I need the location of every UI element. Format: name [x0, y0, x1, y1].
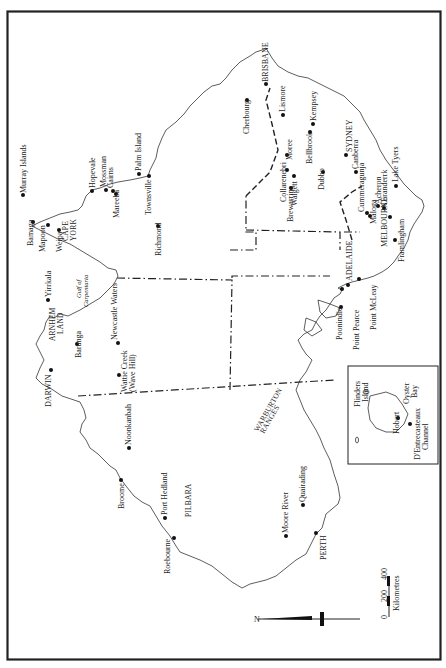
label-cherbourg: Cherbourg — [242, 100, 251, 134]
label-mapoon: Mapoon — [38, 225, 47, 252]
label-noonkanbah: Noonkanbah — [124, 404, 133, 445]
label-kempsey: Kempsey — [309, 91, 318, 121]
label-cummeragunja: Cummeragunja — [357, 162, 366, 212]
north-arrow: N — [254, 612, 360, 626]
label-hobart: Hobart — [392, 411, 401, 434]
label-darwin: DARWIN — [44, 374, 53, 407]
north-label: N — [254, 615, 260, 624]
label-quairading: Quairading — [298, 466, 307, 502]
label-moore-river: Moore River — [281, 492, 290, 533]
label-land: LAND — [56, 312, 65, 334]
label-poonindie: Poonindie — [335, 307, 344, 340]
label-carpentaria: Carpentaria — [82, 275, 89, 307]
scale-unit: Kilometres — [392, 575, 401, 611]
label-bellbrook: Bellbrook — [305, 132, 314, 164]
label-channel: Channel — [421, 423, 430, 450]
label-lake-tyers: Lake Tyers — [391, 147, 400, 183]
label-point-mcleay: Point McLeay — [369, 284, 378, 330]
scale-tick-200: 200 — [380, 590, 389, 602]
label-dubbo: Dubbo — [317, 168, 326, 190]
label-bamaga: Bamaga — [26, 219, 35, 246]
label-broome: Broome — [117, 483, 126, 509]
king-island — [356, 437, 359, 443]
label-townsville: Townsville — [144, 179, 153, 215]
map-frame — [8, 12, 441, 660]
label-mareeba: Mareeba — [112, 190, 121, 218]
label-perth: PERTH — [319, 535, 328, 560]
border-sa-qld — [232, 276, 330, 278]
label-island: Island — [361, 382, 370, 402]
label-pilbara: PILBARA — [184, 483, 193, 517]
label-york: YORK — [69, 219, 78, 241]
label-gulf-of: Gulf of — [75, 279, 82, 298]
label-roebourne: Roebourne — [163, 538, 172, 574]
label-murray-islands: Murray Islands — [19, 144, 28, 193]
label-richmond: Richmond — [154, 223, 163, 256]
border-sa-vic — [230, 196, 256, 250]
label-adelaide: ADELAIDE — [345, 240, 354, 281]
label-melbourne: MELBOURNE — [380, 197, 389, 247]
label-wave-hill: (Wave Hill) — [128, 354, 137, 392]
label-palm-island: Palm Island — [134, 133, 143, 171]
label-bay: Bay — [410, 385, 419, 398]
label-newcastle-waters: Newcastle Waters — [110, 283, 119, 340]
label-cairns: Cairns — [106, 167, 115, 188]
label-barunga: Barunga — [74, 330, 83, 358]
scale-tick-0: 0 — [380, 615, 389, 619]
label-point-pearce: Point Pearce — [352, 309, 361, 350]
label-yirrkala: Yirrkala — [44, 270, 53, 297]
label-hopevale: Hopevale — [88, 157, 97, 188]
label-framlingham: Framlingham — [397, 218, 406, 262]
label-brisbane: BRISBANE — [261, 42, 270, 82]
label-brewarrina: Brewarrina — [286, 186, 295, 222]
label-lismore: Lismore — [278, 85, 287, 112]
label-port-hedland: Port Hedland — [160, 473, 169, 515]
border-qld-nsw — [246, 230, 340, 250]
scale-tick-400: 400 — [380, 568, 389, 580]
australia-map: N — [0, 0, 446, 668]
border-wa — [78, 380, 334, 396]
coastline — [32, 48, 424, 588]
label-moree: Moree — [285, 139, 294, 160]
place-labels: Murray Islands Bamaga Mapoon Weipa CAPE … — [19, 42, 430, 619]
